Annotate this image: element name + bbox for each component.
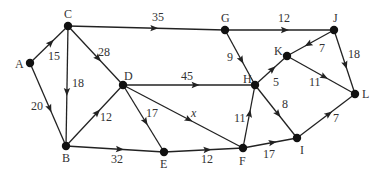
edge-weight-label: 11: [309, 75, 321, 89]
edge-weight-label: 11: [234, 111, 246, 125]
node-label-a: A: [15, 57, 24, 71]
edge-weight-label: 17: [263, 147, 275, 161]
edge-weight-label: 28: [98, 45, 110, 59]
edge-line: [123, 85, 243, 148]
node-label-g: G: [221, 11, 230, 25]
node-label-b: B: [62, 151, 70, 165]
arrowhead-icon: [303, 40, 313, 49]
node-label-h: H: [243, 72, 252, 86]
node-k: [283, 52, 291, 60]
node-label-j: J: [333, 11, 338, 25]
directed-graph-diagram: 152018283512321745x12111712958718117ACDG…: [0, 0, 379, 174]
edge-b-d: [66, 85, 123, 146]
node-c: [64, 22, 72, 30]
edge-weight-label: 12: [278, 11, 290, 25]
node-a: [26, 59, 34, 67]
edge-line: [68, 26, 225, 30]
edge-weight-label: 7: [319, 41, 325, 55]
edge-weight-label: 20: [31, 99, 43, 113]
arrowhead-icon: [341, 60, 350, 70]
edge-weight-label: 8: [282, 97, 288, 111]
node-label-l: L: [362, 87, 369, 101]
edge-line: [287, 30, 334, 56]
node-label-k: K: [274, 44, 283, 58]
edge-d-f: [123, 85, 243, 148]
node-i: [293, 134, 301, 142]
node-label-f: F: [239, 154, 246, 168]
node-label-e: E: [160, 157, 167, 171]
edge-weight-label: x: [190, 106, 197, 120]
edge-weight-label: 7: [333, 111, 339, 125]
edge-weight-label: 9: [227, 50, 233, 64]
edge-c-b: [64, 26, 71, 146]
edge-weight-label: 17: [146, 106, 158, 120]
edge-c-g: [68, 25, 225, 32]
arrowhead-icon: [319, 72, 329, 81]
edge-weight-label: 35: [152, 10, 164, 24]
edge-weight-label: 18: [348, 47, 360, 61]
node-g: [221, 26, 229, 34]
edge-weight-label: 45: [181, 69, 193, 83]
node-b: [62, 142, 70, 150]
edge-line: [255, 85, 297, 138]
edge-weight-label: 5: [273, 75, 279, 89]
edge-g-j: [225, 27, 334, 33]
node-e: [160, 148, 168, 156]
node-j: [330, 26, 338, 34]
edge-h-k: [255, 56, 287, 85]
edge-j-k: [287, 30, 334, 56]
node-label-c: C: [64, 7, 72, 21]
edge-weight-label: 15: [48, 49, 60, 63]
node-f: [239, 144, 247, 152]
edge-line: [297, 94, 355, 138]
arrowhead-icon: [45, 104, 54, 114]
node-l: [351, 90, 359, 98]
node-label-i: I: [300, 143, 304, 157]
arrowhead-icon: [237, 55, 246, 65]
edge-h-i: [255, 85, 297, 138]
edge-line: [66, 85, 123, 146]
edge-i-l: [297, 94, 355, 138]
edge-weight-label: 12: [100, 110, 112, 124]
node-h: [251, 81, 259, 89]
node-label-d: D: [124, 69, 133, 83]
edge-weight-label: 32: [111, 152, 123, 166]
edge-line: [66, 26, 68, 146]
edge-weight-label: 18: [72, 76, 84, 90]
edge-weight-label: 12: [201, 152, 213, 166]
